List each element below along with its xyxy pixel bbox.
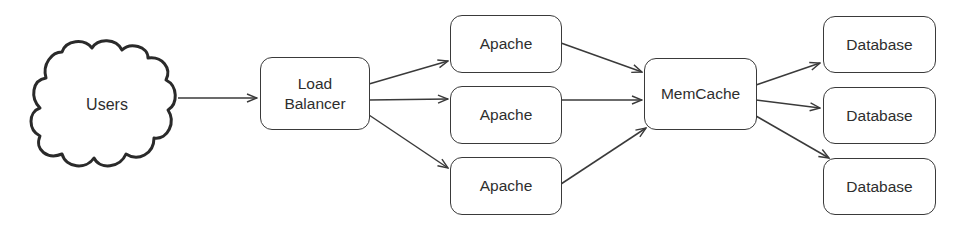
apache-node-3: Apache — [450, 157, 562, 215]
users-label: Users — [67, 96, 147, 114]
memcache-node: MemCache — [644, 58, 757, 130]
edge-lb-to-apache-1 — [369, 61, 448, 84]
load-balancer-node: Load Balancer — [260, 57, 370, 130]
edge-apache-1-to-memcache — [561, 43, 642, 72]
database-label: Database — [846, 106, 912, 126]
edge-memcache-to-db-3 — [756, 116, 829, 158]
database-node-3: Database — [823, 158, 936, 215]
load-balancer-label-line1: Load — [298, 74, 332, 94]
apache-label: Apache — [480, 176, 533, 196]
edge-apache-3-to-memcache — [561, 128, 646, 184]
database-node-1: Database — [823, 16, 936, 73]
database-label: Database — [846, 177, 912, 197]
load-balancer-label-line2: Balancer — [284, 94, 345, 114]
apache-label: Apache — [480, 34, 533, 54]
edge-memcache-to-db-1 — [756, 63, 820, 85]
edge-lb-to-apache-3 — [369, 115, 448, 168]
edge-memcache-to-db-2 — [756, 100, 820, 108]
architecture-diagram: Users Load Balancer Apache Apache Apache… — [0, 0, 970, 229]
memcache-label: MemCache — [661, 84, 740, 104]
apache-node-2: Apache — [450, 86, 562, 144]
apache-label: Apache — [480, 105, 533, 125]
edge-lb-to-apache-2 — [369, 99, 448, 100]
database-node-2: Database — [823, 87, 936, 144]
database-label: Database — [846, 35, 912, 55]
apache-node-1: Apache — [450, 15, 562, 73]
